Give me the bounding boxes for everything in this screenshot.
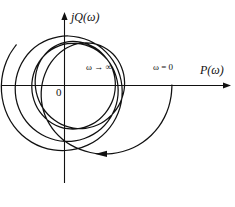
nyquist-plot-figure: jQ(ω) P(ω) ω → ∞ ω = 0 0: [0, 0, 235, 207]
origin-label: 0: [56, 87, 62, 98]
imaginary-axis-label: jQ(ω): [71, 11, 99, 23]
right-arrow-axis-icon: [223, 82, 231, 88]
omega-infinity-annotation: ω → ∞: [86, 63, 112, 72]
omega-zero-annotation: ω = 0: [153, 63, 173, 72]
imaginary-axis: [61, 12, 67, 183]
real-axis: [2, 82, 231, 88]
up-arrow-axis-icon: [61, 12, 67, 20]
direction-arrow-icon: [95, 151, 107, 157]
nyquist-plot-canvas: [0, 0, 235, 207]
real-axis-label: P(ω): [200, 64, 224, 76]
nyquist-locus-curve: [1, 36, 172, 154]
